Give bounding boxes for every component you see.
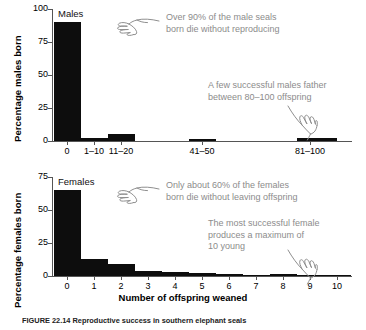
- x-tick: [337, 276, 338, 280]
- x-tick-label: 2: [107, 281, 135, 291]
- annotation-males-mortality: Over 90% of the male seals born die with…: [166, 12, 361, 35]
- bar-females-0: [54, 190, 81, 276]
- y-tick: [48, 276, 52, 277]
- y-tick-label: 50: [38, 69, 48, 79]
- pointing-hand-right-icon: [113, 15, 161, 37]
- y-tick-label: 25: [38, 237, 48, 247]
- x-tick-label: 41–50: [182, 146, 222, 156]
- annotation-females-mortality: Only about 60% of the females born die w…: [166, 180, 366, 203]
- figure-caption: FIGURE 22.14 Reproductive success in sou…: [22, 316, 352, 329]
- x-tick-label: 10: [323, 281, 351, 291]
- x-tick: [229, 276, 230, 280]
- x-tick-label: 5: [188, 281, 216, 291]
- y-tick-labels-males: 100 75 50 25 0: [20, 0, 48, 140]
- y-tick-label: 75: [38, 36, 48, 46]
- figure-root: Percentage males born 100 75 50 25 0: [0, 0, 366, 330]
- x-tick: [256, 276, 257, 280]
- annotation-males-success: A few successful males father between 80…: [208, 80, 366, 103]
- x-tick: [67, 276, 68, 280]
- x-tick: [283, 276, 284, 280]
- bar-females-1: [81, 259, 108, 276]
- pointing-hand-down-icon: [285, 104, 319, 142]
- pointing-hand-down-icon: [285, 248, 319, 286]
- y-axis-line-females: [52, 177, 53, 276]
- x-tick: [202, 141, 203, 145]
- panel-title-males: Males: [58, 8, 83, 19]
- bar-females-2: [108, 264, 135, 276]
- y-tick: [48, 42, 52, 43]
- y-tick-labels-females: 75 50 25 0: [20, 168, 48, 283]
- x-tick-label: 11–20: [101, 146, 141, 156]
- x-tick-label: 1: [80, 281, 108, 291]
- chart-panel-males: Percentage males born 100 75 50 25 0: [0, 0, 366, 162]
- x-axis-title: Number of offspring weaned: [0, 292, 366, 303]
- y-tick: [48, 177, 52, 178]
- x-tick: [94, 141, 95, 145]
- y-tick-label: 25: [38, 102, 48, 112]
- x-tick-label: 81–100: [287, 146, 333, 156]
- bar-males-0: [54, 22, 81, 141]
- x-tick-label: 4: [161, 281, 189, 291]
- x-tick: [121, 276, 122, 280]
- y-axis-line-males: [52, 9, 53, 141]
- y-tick: [48, 75, 52, 76]
- x-tick: [148, 276, 149, 280]
- y-tick: [48, 243, 52, 244]
- chart-panel-females: Percentage females born 75 50 25 0: [0, 168, 366, 308]
- x-tick-label: 0: [53, 281, 81, 291]
- y-tick: [48, 108, 52, 109]
- y-tick-label: 75: [38, 171, 48, 181]
- x-tick: [121, 141, 122, 145]
- y-tick: [48, 210, 52, 211]
- panel-title-females: Females: [58, 176, 94, 187]
- y-tick-label: 0: [43, 270, 48, 280]
- x-tick-label: 6: [215, 281, 243, 291]
- x-tick: [175, 276, 176, 280]
- pointing-hand-right-icon: [113, 183, 161, 205]
- x-tick-label: 3: [134, 281, 162, 291]
- x-tick: [202, 276, 203, 280]
- x-tick-label: 7: [242, 281, 270, 291]
- x-tick: [94, 276, 95, 280]
- x-tick: [67, 141, 68, 145]
- y-tick-label: 0: [43, 135, 48, 145]
- y-tick-label: 50: [38, 204, 48, 214]
- y-tick-label: 100: [33, 3, 48, 13]
- y-tick: [48, 141, 52, 142]
- y-tick: [48, 9, 52, 10]
- bar-males-2: [108, 134, 135, 141]
